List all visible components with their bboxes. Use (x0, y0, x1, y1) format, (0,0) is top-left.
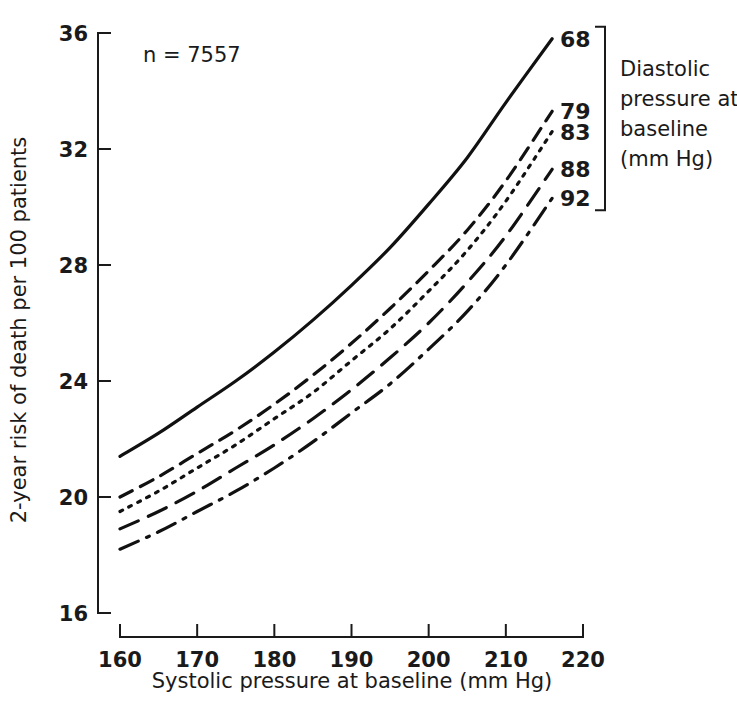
x-axis: 160170180190200210220 (98, 625, 605, 672)
y-axis-title: 2-year risk of death per 100 patients (7, 137, 31, 524)
y-axis: 162024283236 (59, 22, 110, 626)
curve-68 (120, 39, 552, 457)
y-axis-ticks (98, 33, 110, 613)
legend-entries: 6879838892 (560, 27, 591, 212)
legend-label-88: 88 (560, 157, 591, 182)
sample-size-annotation: n = 7557 (143, 43, 241, 67)
y-tick-label: 36 (59, 22, 88, 46)
curve-83 (120, 132, 552, 512)
y-tick-label: 28 (59, 254, 88, 278)
x-tick-label: 220 (561, 648, 605, 672)
y-tick-label: 20 (59, 486, 88, 510)
legend-bracket (595, 27, 605, 211)
legend: 6879838892 Diastolicpressure atbaseline(… (560, 27, 737, 212)
legend-label-92: 92 (560, 186, 591, 211)
legend-title: Diastolicpressure atbaseline(mm Hg) (620, 57, 737, 171)
x-axis-title: Systolic pressure at baseline (mm Hg) (152, 669, 553, 693)
x-axis-ticks (120, 625, 583, 637)
y-tick-label: 16 (59, 602, 88, 626)
legend-title-line: Diastolic (620, 57, 710, 81)
risk-curves-chart: 162024283236 160170180190200210220 n = 7… (0, 0, 737, 712)
legend-title-line: (mm Hg) (620, 147, 713, 171)
y-tick-label: 24 (59, 370, 88, 394)
data-curves (120, 39, 552, 549)
y-tick-label: 32 (59, 138, 88, 162)
y-axis-line (98, 33, 110, 613)
x-tick-label: 160 (98, 648, 142, 672)
figure-canvas: 162024283236 160170180190200210220 n = 7… (0, 0, 737, 712)
legend-title-line: baseline (620, 117, 708, 141)
curve-79 (120, 111, 552, 497)
legend-title-line: pressure at (620, 87, 737, 111)
legend-label-83: 83 (560, 120, 591, 145)
legend-label-68: 68 (560, 27, 591, 52)
y-axis-tick-labels: 162024283236 (59, 22, 88, 626)
